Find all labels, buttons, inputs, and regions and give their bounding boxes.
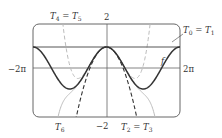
y-top-label: 2 [104, 12, 109, 22]
t6-label: T6 [55, 122, 65, 133]
taylor-cosine-figure: 2 −2 −2π 2π f T4 = T5 T0 = T1 T6 T2 = T3 [0, 0, 222, 138]
y-bottom-label: −2 [96, 121, 109, 131]
t0-t1-label: T0 = T1 [183, 25, 215, 36]
plot-frame [33, 24, 180, 117]
t2-t3-label: T2 = T3 [121, 122, 153, 133]
t0-t1-pointer [172, 34, 183, 42]
x-left-label: −2π [8, 64, 27, 74]
x-right-label: 2π [183, 64, 194, 74]
t4-t5-label: T4 = T5 [50, 11, 82, 22]
